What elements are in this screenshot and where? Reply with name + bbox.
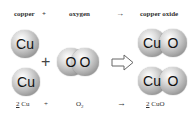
label-plus: + [42,10,46,18]
atom-symbol: O [80,54,91,70]
atom-symbol: Cu [143,35,161,51]
equation-reactant1: 2 Cu [16,100,29,108]
equation-product: 2 CuO [146,100,164,108]
atom-symbol: Cu [16,36,34,52]
hollow-arrow-icon [111,54,135,71]
oxygen-atom-product-1: O [159,29,187,57]
subscript: 2 [81,104,84,109]
label-copper-oxide: copper oxide [140,10,178,18]
copper-atom-1: Cu [11,30,39,58]
atom-symbol: O [168,73,179,89]
equation-plus: + [44,100,48,108]
formula-cuo: CuO [150,100,165,108]
atom-symbol: Cu [143,73,161,89]
atom-symbol: O [168,35,179,51]
equation-reactant2: O2 [76,100,84,109]
label-oxygen: oxygen [69,10,90,18]
label-copper: copper [14,10,35,18]
equation-arrow: → [117,98,126,108]
plus-sign: + [41,53,50,71]
formula-cu: Cu [20,100,30,108]
atom-symbol: Cu [17,74,35,90]
label-arrow: → [116,9,124,18]
copper-atom-2: Cu [12,68,40,96]
oxygen-atom-product-2: O [159,67,187,95]
atom-symbol: O [66,54,77,70]
